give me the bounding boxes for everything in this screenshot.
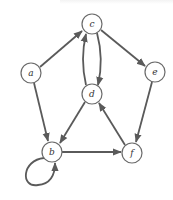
node-label-b: b <box>49 147 55 157</box>
node-c: c <box>82 14 102 34</box>
edge-d-c <box>83 34 86 85</box>
edge-a-c <box>40 31 82 67</box>
node-e: e <box>145 62 165 82</box>
node-label-a: a <box>28 68 33 78</box>
edge-e-f <box>136 82 152 142</box>
node-label-c: c <box>89 19 94 29</box>
edge-a-b <box>34 83 48 141</box>
node-label-d: d <box>89 89 95 99</box>
edge-c-d <box>97 33 101 85</box>
node-f: f <box>122 143 142 163</box>
edge-f-d <box>99 103 125 145</box>
edge-c-e <box>101 30 145 66</box>
node-b: b <box>42 142 62 162</box>
directed-graph: a b c d e f <box>0 0 173 200</box>
node-d: d <box>82 84 102 104</box>
node-a: a <box>21 63 41 83</box>
node-label-e: e <box>152 67 157 77</box>
edge-d-b <box>60 102 85 143</box>
